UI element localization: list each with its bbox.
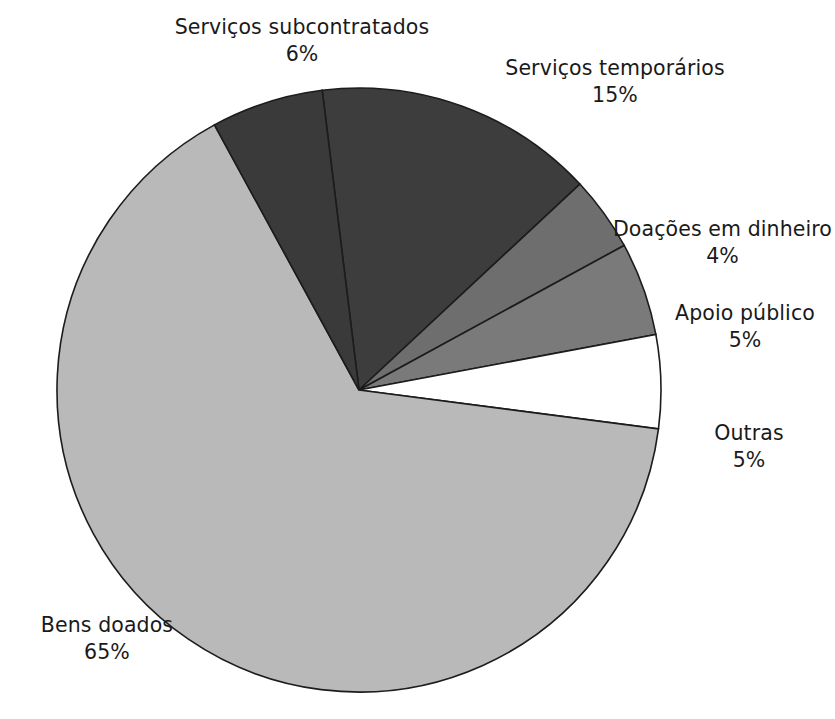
pie-label-value: 4% [610,243,835,270]
pie-label-name: Apoio público [655,300,835,327]
pie-label-outras: Outras 5% [663,420,835,474]
pie-label-servicos-subcontratados: Serviços subcontratados 6% [152,14,452,68]
pie-label-value: 5% [663,447,835,474]
pie-label-doacoes-em-dinheiro: Doações em dinheiro 4% [610,216,835,270]
pie-chart: Serviços subcontratados 6% Serviços temp… [0,0,835,719]
pie-label-value: 15% [465,82,765,109]
pie-label-name: Bens doados [2,612,212,639]
pie-label-apoio-publico: Apoio público 5% [655,300,835,354]
pie-label-value: 65% [2,639,212,666]
pie-label-name: Serviços subcontratados [152,14,452,41]
pie-label-bens-doados: Bens doados 65% [2,612,212,666]
pie-label-name: Outras [663,420,835,447]
pie-label-value: 6% [152,41,452,68]
pie-label-name: Serviços temporários [465,55,765,82]
pie-slices-group [57,88,661,692]
pie-label-servicos-temporarios: Serviços temporários 15% [465,55,765,109]
pie-label-value: 5% [655,327,835,354]
pie-label-name: Doações em dinheiro [610,216,835,243]
